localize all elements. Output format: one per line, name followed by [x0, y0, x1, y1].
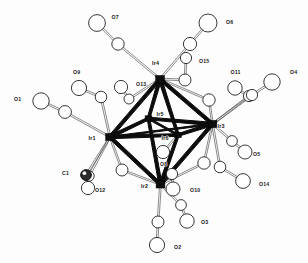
oxygen-atom-o7	[89, 15, 106, 32]
label-o8: O8	[160, 161, 167, 167]
label-o4: O4	[290, 69, 297, 75]
carbon-atom-o2	[152, 216, 164, 228]
label-o3: O3	[201, 219, 208, 225]
oxygen-atom-o1	[33, 93, 49, 109]
label-o15: O15	[199, 58, 209, 64]
molecular-structure-canvas: O1O9O12C1O7O13O6O15O11O4O5O14O10O3O2O8Ir…	[0, 0, 308, 263]
label-o11: O11	[231, 69, 241, 75]
oxygen-atom-o2	[149, 237, 164, 252]
oxygen-atom-o14	[236, 174, 251, 189]
oxygen-atom-o15	[180, 52, 191, 63]
metal-atom-ir5	[145, 116, 152, 121]
oxygen-atom-o8	[156, 145, 169, 158]
carbon-atom-o9	[95, 91, 107, 103]
carbon-atom-o6	[183, 37, 196, 50]
label-c1: C1	[62, 170, 69, 176]
label-o6: O6	[226, 19, 233, 25]
shaded-atom-highlight-c1	[83, 171, 87, 175]
metal-atom-ir1	[106, 133, 115, 140]
label-ir2: Ir2	[141, 183, 148, 189]
carbon-atom-o13	[124, 94, 134, 104]
label-o5: O5	[253, 151, 260, 157]
metal-atom-ir3	[208, 120, 217, 127]
metal-atom-ir4	[156, 75, 165, 82]
label-ir6: Ir6	[162, 135, 169, 141]
oxygen-atom-o3	[180, 214, 194, 228]
label-o2: O2	[174, 244, 181, 250]
label-o7: O7	[112, 14, 119, 20]
bridge-c-right-lower	[198, 157, 210, 169]
metal-atom-ir6	[175, 132, 182, 137]
oxygen-atom-o9	[71, 80, 86, 95]
label-ir4: Ir4	[152, 60, 159, 66]
oxygen-atom-o5	[238, 145, 252, 159]
carbon-atom-o4	[246, 89, 257, 100]
label-ir5: Ir5	[157, 111, 164, 117]
oxygen-atom-o12	[81, 181, 94, 194]
oxygen-atom-o4	[264, 74, 280, 90]
label-o13: O13	[136, 81, 146, 87]
oxygen-atom-o6	[199, 14, 217, 32]
oxygen-atom-o13	[114, 80, 127, 93]
carbon-atom-o1	[59, 106, 72, 119]
bridge-c-left-lower	[116, 164, 128, 176]
carbon-atom-o14	[214, 161, 226, 173]
carbon-atom-o3	[176, 200, 187, 211]
ortep-structure-figure: O1O9O12C1O7O13O6O15O11O4O5O14O10O3O2O8Ir…	[0, 0, 308, 263]
carbon-atom-o10	[166, 168, 177, 179]
label-o14: O14	[259, 181, 269, 187]
label-o1: O1	[14, 96, 21, 102]
oxygen-atom-o11	[228, 81, 242, 95]
carbon-atom-o7	[112, 38, 124, 50]
label-o12: O12	[95, 187, 105, 193]
label-o10: O10	[190, 187, 200, 193]
oxygen-atom-o10	[166, 182, 180, 196]
carbon-atom-o15	[179, 74, 191, 86]
carbon-atom-o5	[227, 136, 238, 147]
label-ir3: Ir3	[218, 123, 225, 129]
bridge-c-right-upper	[203, 94, 215, 106]
label-o9: O9	[73, 69, 80, 75]
shaded-atom-c1	[81, 170, 92, 181]
metal-atom-ir2	[156, 181, 165, 188]
label-ir1: Ir1	[89, 135, 96, 141]
